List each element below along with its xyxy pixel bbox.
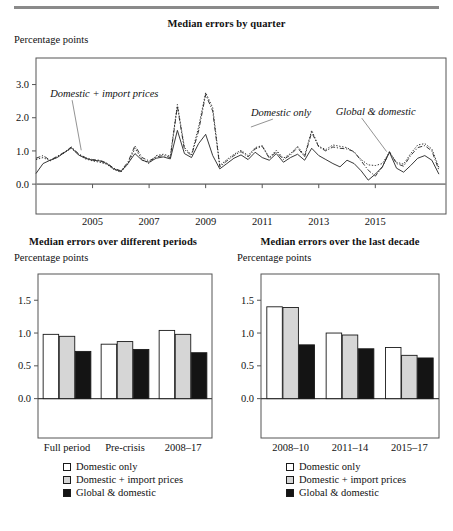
chart-title-bar-right: Median errors over the last decade: [227, 236, 453, 247]
x-tick-label: 2007: [139, 216, 160, 227]
y-tick-label: 1.0: [18, 328, 31, 339]
bar-domestic-only: [326, 333, 342, 399]
x-category-label: 2015–17: [391, 442, 428, 453]
y-axis-unit-bar-left: Percentage points: [14, 252, 88, 263]
annotation-leader-global-domestic: [362, 118, 387, 152]
y-tick-label: 1.0: [16, 146, 29, 157]
bar-right-plot-svg: 0.00.51.01.52008–102011–142015–17: [227, 268, 453, 458]
bar-domestic-import-prices: [59, 336, 75, 398]
y-tick-label: 2.0: [16, 112, 29, 123]
legend-swatch-global-domestic: [286, 489, 294, 497]
x-tick-label: 2005: [82, 216, 103, 227]
bar-domestic-only: [43, 334, 59, 398]
y-tick-label: 0.5: [241, 360, 254, 371]
header-rule: [14, 6, 439, 9]
bar-global-domestic: [358, 349, 374, 399]
bar-global-domestic: [133, 349, 149, 398]
y-tick-label: 0.5: [18, 360, 31, 371]
y-axis-unit-bar-right: Percentage points: [237, 252, 311, 263]
chart-title-bar-left: Median errors over different periods: [0, 236, 226, 247]
x-category-label: 2011–14: [332, 442, 369, 453]
legend-swatch-domestic-import-prices: [286, 476, 294, 484]
bar-domestic-import-prices: [283, 307, 299, 398]
chart-title-line: Median errors by quarter: [0, 18, 453, 29]
legend-item-domestic-only: Domestic only: [286, 460, 406, 473]
legend-label-domestic-import-prices: Domestic + import prices: [299, 474, 406, 485]
annotation-label-domestic-import-prices: Domestic + import prices: [49, 88, 158, 99]
legend-bar-right: Domestic only Domestic + import prices G…: [286, 460, 406, 499]
bar-global-domestic: [299, 345, 315, 399]
legend-swatch-domestic-import-prices: [63, 476, 71, 484]
annotation-label-domestic-only: Domestic only: [250, 107, 312, 118]
y-axis-unit-line: Percentage points: [14, 34, 88, 45]
legend-item-domestic-only: Domestic only: [63, 460, 183, 473]
y-tick-label: 0.0: [18, 393, 31, 404]
legend-label-domestic-import-prices: Domestic + import prices: [76, 474, 183, 485]
bar-left-plot-svg: 0.00.51.01.5Full periodPre-crisis2008–17: [0, 268, 226, 458]
chart-median-errors-over-the-last-decade: Median errors over the last decade Perce…: [227, 236, 453, 531]
bar-domestic-import-prices: [175, 334, 191, 398]
y-tick-label: 0.0: [16, 179, 29, 190]
x-tick-label: 2013: [308, 216, 329, 227]
bar-global-domestic: [418, 358, 434, 399]
legend-item-global-domestic: Global & domestic: [286, 486, 406, 499]
x-tick-label: 2009: [195, 216, 216, 227]
chart-median-errors-over-different-periods: Median errors over different periods Per…: [0, 236, 226, 531]
chart-median-errors-by-quarter: Median errors by quarter Percentage poin…: [0, 18, 453, 230]
legend-label-global-domestic: Global & domestic: [299, 487, 379, 498]
annotation-leader-domestic-import-prices: [72, 100, 81, 150]
bar-global-domestic: [75, 351, 91, 398]
bar-domestic-import-prices: [342, 335, 358, 399]
plot-frame: [36, 58, 446, 214]
y-tick-label: 1.0: [241, 328, 254, 339]
bar-domestic-import-prices: [117, 342, 133, 399]
legend-swatch-global-domestic: [63, 489, 71, 497]
y-tick-label: 1.5: [241, 295, 254, 306]
x-tick-label: 2015: [365, 216, 386, 227]
bar-domestic-only: [101, 344, 117, 398]
series-line-domestic-only: [36, 130, 439, 180]
bar-domestic-only: [385, 347, 401, 398]
y-tick-label: 3.0: [16, 79, 29, 90]
legend-label-domestic-only: Domestic only: [299, 461, 361, 472]
bar-domestic-only: [159, 330, 175, 398]
annotation-label-global-domestic: Global & domestic: [336, 106, 416, 117]
y-tick-label: 0.0: [241, 393, 254, 404]
x-category-label: 2008–10: [272, 442, 309, 453]
y-tick-label: 1.5: [18, 295, 31, 306]
legend-item-global-domestic: Global & domestic: [63, 486, 183, 499]
annotation-leader-domestic-only: [251, 119, 273, 127]
legend-swatch-domestic-only: [63, 463, 71, 471]
legend-label-domestic-only: Domestic only: [76, 461, 138, 472]
line-plot-svg: 0.01.02.03.0200520072009201120132015Dome…: [0, 48, 453, 228]
legend-item-domestic-import-prices: Domestic + import prices: [286, 473, 406, 486]
x-tick-label: 2011: [252, 216, 273, 227]
legend-bar-left: Domestic only Domestic + import prices G…: [63, 460, 183, 499]
bar-global-domestic: [191, 353, 207, 399]
legend-swatch-domestic-only: [286, 463, 294, 471]
legend-item-domestic-import-prices: Domestic + import prices: [63, 473, 183, 486]
x-category-label: 2008–17: [165, 442, 202, 453]
x-category-label: Pre-crisis: [105, 442, 145, 453]
bar-domestic-only: [267, 307, 283, 399]
bar-domestic-import-prices: [402, 355, 418, 398]
x-category-label: Full period: [44, 442, 91, 453]
legend-label-global-domestic: Global & domestic: [76, 487, 156, 498]
